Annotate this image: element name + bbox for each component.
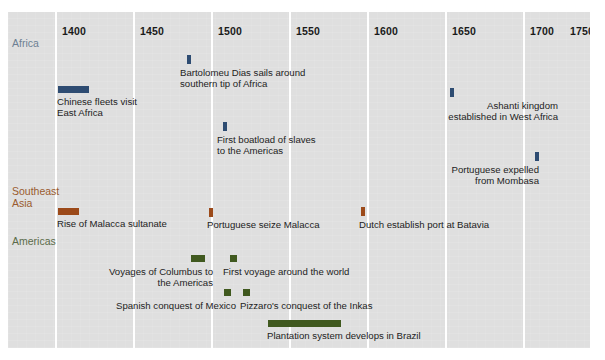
axis-tick-1400: 1400 — [62, 25, 86, 37]
axis-tick-1600: 1600 — [374, 25, 398, 37]
axis-tick-1700: 1700 — [530, 25, 554, 37]
event-label-pizarro-conquest-inkas: Pizzaro's conquest of the Inkas — [240, 300, 455, 311]
event-mark-bartolomeu-dias[interactable] — [187, 55, 191, 64]
gridline-1450 — [133, 12, 135, 348]
event-label-first-boatload-slaves: First boatload of slaves to the Americas — [217, 134, 407, 157]
axis-tick-1550: 1550 — [296, 25, 320, 37]
axis-tick-1500: 1500 — [218, 25, 242, 37]
event-mark-first-circumnavigation[interactable] — [230, 255, 237, 262]
chart-panel: 1400 1450 1500 1550 1600 1650 1700 1750 … — [8, 12, 590, 348]
gridline-1500 — [211, 12, 213, 348]
axis-tick-1750: 1750 — [570, 25, 590, 37]
event-mark-columbus-voyages[interactable] — [191, 255, 205, 262]
event-label-ashanti-kingdom: Ashanti kingdom established in West Afri… — [308, 100, 558, 123]
event-label-first-circumnavigation: First voyage around the world — [223, 266, 433, 277]
timeline-chart: 1400 1450 1500 1550 1600 1650 1700 1750 … — [0, 0, 605, 360]
event-mark-pizarro-conquest-inkas[interactable] — [243, 289, 250, 296]
gridline-1550 — [289, 12, 291, 348]
event-label-portuguese-expelled-mombasa: Portuguese expelled from Mombasa — [328, 164, 539, 187]
event-label-dutch-batavia: Dutch establish port at Batavia — [359, 219, 579, 230]
event-mark-malacca-sultanate[interactable] — [58, 208, 79, 215]
row-label-southeast-asia: Southeast Asia — [12, 186, 59, 209]
event-mark-chinese-fleets[interactable] — [58, 86, 89, 93]
event-mark-portuguese-seize-malacca[interactable] — [209, 208, 213, 217]
event-label-columbus-voyages: Voyages of Columbus to the Americas — [58, 266, 213, 289]
event-label-bartolomeu-dias: Bartolomeu Dias sails around southern ti… — [180, 67, 380, 90]
row-label-africa: Africa — [12, 38, 39, 50]
axis-tick-1650: 1650 — [452, 25, 476, 37]
event-mark-spanish-conquest-mexico[interactable] — [224, 289, 231, 296]
row-label-americas: Americas — [12, 236, 56, 248]
event-label-plantation-brazil: Plantation system develops in Brazil — [267, 330, 527, 341]
event-label-chinese-fleets: Chinese fleets visit East Africa — [57, 96, 217, 119]
event-mark-ashanti-kingdom[interactable] — [450, 88, 454, 97]
event-mark-first-boatload-slaves[interactable] — [223, 122, 227, 131]
axis-tick-1450: 1450 — [140, 25, 164, 37]
gridline-1400 — [55, 12, 57, 348]
event-mark-dutch-batavia[interactable] — [361, 207, 365, 216]
event-mark-plantation-brazil[interactable] — [268, 320, 341, 327]
event-mark-portuguese-expelled-mombasa[interactable] — [535, 152, 539, 161]
event-label-spanish-conquest-mexico: Spanish conquest of Mexico — [68, 300, 236, 311]
